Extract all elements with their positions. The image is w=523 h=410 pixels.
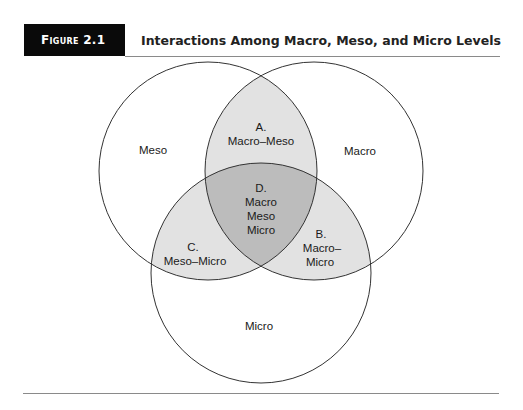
region-a-text: Macro–Meso	[228, 135, 294, 147]
region-d-line1: Macro	[245, 196, 277, 208]
region-b-letter: B.	[316, 228, 327, 240]
region-d-letter: D.	[255, 182, 267, 194]
region-d-line2: Meso	[247, 210, 275, 222]
region-b-line2: Micro	[306, 256, 334, 268]
region-c-letter: C.	[187, 241, 199, 253]
region-a-letter: A.	[256, 121, 267, 133]
region-b-line1: Macro–	[303, 242, 342, 254]
region-d-line3: Micro	[247, 224, 275, 236]
bottom-rule	[23, 393, 499, 394]
label-macro: Macro	[344, 145, 376, 157]
region-c-text: Meso–Micro	[164, 255, 227, 267]
venn-diagram: Meso Macro Micro A. Macro–Meso D. Macro …	[0, 0, 523, 410]
label-meso: Meso	[139, 144, 167, 156]
label-micro: Micro	[245, 320, 273, 332]
